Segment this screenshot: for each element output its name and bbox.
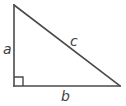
label-side-c: c — [70, 34, 78, 48]
label-side-b: b — [61, 89, 70, 103]
label-side-a: a — [3, 42, 12, 56]
triangle-hypotenuse-c — [14, 5, 120, 86]
right-triangle-diagram: a c b — [0, 0, 126, 106]
right-angle-marker-icon — [14, 77, 23, 86]
